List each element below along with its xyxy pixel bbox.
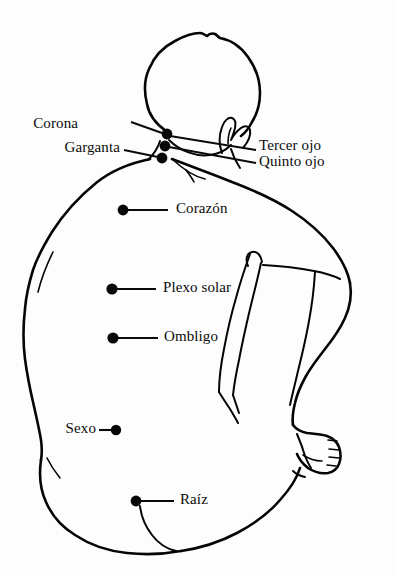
knuckle-line-4 [327,465,336,466]
label-sexo: Sexo [66,421,96,437]
hips-group [40,458,305,554]
chakra-dot-quinto-ojo[interactable] [160,141,171,152]
leader-line-quinto-ojo [169,147,256,163]
forearm-back-edge [233,263,261,395]
chakra-dot-corona[interactable] [162,129,173,140]
wrist-line-2 [233,395,239,413]
left-shoulder-and-side [24,159,151,460]
label-quinto-ojo: Quinto ojo [259,154,325,170]
knuckle-line-2 [329,449,339,450]
label-ombligo: Ombligo [164,329,218,345]
buttocks-left-outline [40,460,181,554]
label-corazon: Corazón [176,201,228,217]
chakra-dot-sexo[interactable] [111,425,121,435]
neck-shadow-line [186,170,194,182]
leader-line-tercer-ojo [170,136,256,150]
gluteal-cleft [140,506,176,551]
armpit-line [263,265,340,279]
label-corona: Corona [33,116,78,132]
label-raiz: Raíz [180,492,208,508]
label-garganta: Garganta [65,140,121,156]
label-plexo-solar: Plexo solar [163,280,231,296]
hand-group [293,425,341,473]
right-arm-group [219,252,340,423]
label-tercer-ojo: Tercer ojo [259,138,321,154]
buttocks-right-outline [181,468,300,551]
chakra-dots-group [106,129,172,507]
chakra-diagram-page: Corona Garganta Tercer ojo Quinto ojo Co… [0,0,397,574]
forearm-front-edge [219,254,250,392]
hair-outline [145,33,260,136]
chakra-dot-corazon[interactable] [118,205,129,216]
left-lat-fold [38,252,53,292]
chakra-dot-plexo-solar[interactable] [106,283,117,294]
left-hip-fold [47,458,60,478]
ear-inner-fold [228,128,231,144]
chakra-dot-raiz[interactable] [131,496,142,507]
wrist-line [219,392,238,423]
knuckle-line-3 [329,457,339,458]
head-outline-group [145,33,260,155]
chakra-dot-garganta[interactable] [157,153,168,164]
chakra-dot-ombligo[interactable] [107,332,118,343]
knuckle-line-1 [328,440,337,441]
